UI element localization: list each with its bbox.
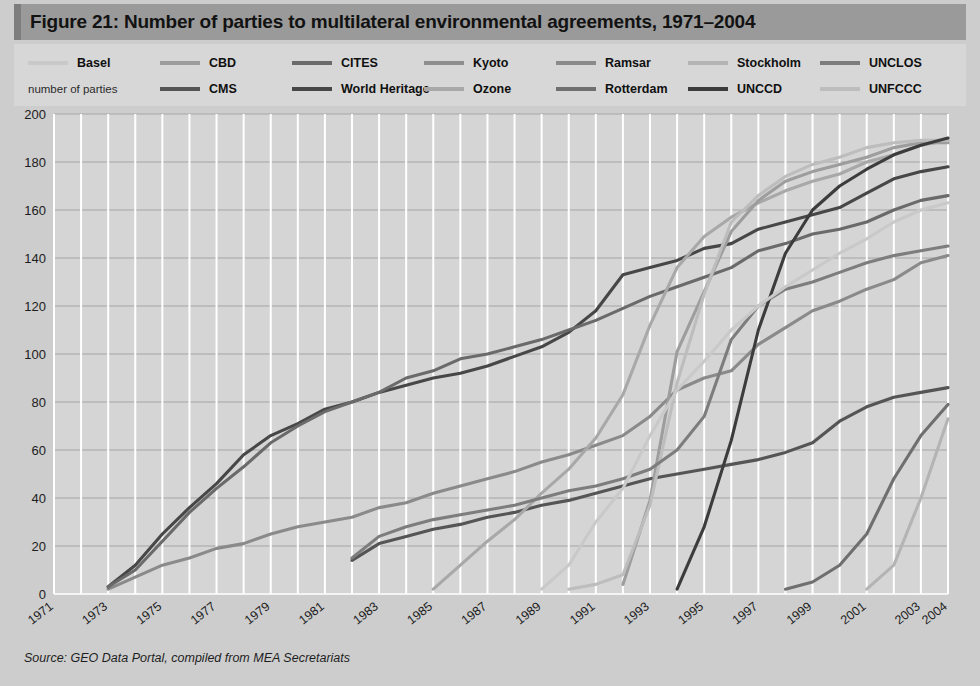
legend-swatch-icon <box>292 61 332 65</box>
legend-label: Stockholm <box>737 56 801 70</box>
legend-item-rotterdam: Rotterdam <box>556 82 668 96</box>
source-caption: Source: GEO Data Portal, compiled from M… <box>24 651 350 665</box>
legend-swatch-icon <box>556 87 596 91</box>
legend-item-unccd: UNCCD <box>688 82 782 96</box>
legend-item-unclos: UNCLOS <box>820 56 922 70</box>
legend-label: Rotterdam <box>605 82 668 96</box>
figure-title-bar: Figure 21: Number of parties to multilat… <box>14 4 966 40</box>
legend-item-world-heritage: World Heritage <box>292 82 430 96</box>
page-title: Figure 21: Number of parties to multilat… <box>14 11 755 33</box>
y-axis-tick: 40 <box>32 491 46 506</box>
y-axis-tick: 140 <box>24 251 46 266</box>
figure-container: Figure 21: Number of parties to multilat… <box>0 0 980 686</box>
legend-swatch-icon <box>820 87 860 91</box>
legend-item-unfccc: UNFCCC <box>820 82 922 96</box>
y-axis-tick: 60 <box>32 443 46 458</box>
legend-label: World Heritage <box>341 82 430 96</box>
y-axis-tick: 180 <box>24 155 46 170</box>
y-axis-caption: number of parties <box>28 83 118 95</box>
y-axis-tick: 80 <box>32 395 46 410</box>
chart-legend: BaselCBDCITESKyotoRamsarStockholmUNCLOS … <box>14 44 966 106</box>
legend-item-stockholm: Stockholm <box>688 56 801 70</box>
y-axis-tick: 100 <box>24 347 46 362</box>
legend-label: UNFCCC <box>869 82 922 96</box>
legend-item-cbd: CBD <box>160 56 236 70</box>
title-bar-accent <box>14 4 21 40</box>
y-axis-tick: 200 <box>24 107 46 122</box>
legend-row-1: BaselCBDCITESKyotoRamsarStockholmUNCLOS <box>14 50 966 76</box>
legend-swatch-icon <box>160 87 200 91</box>
legend-item-ramsar: Ramsar <box>556 56 651 70</box>
legend-swatch-icon <box>424 61 464 65</box>
legend-label: CBD <box>209 56 236 70</box>
legend-label: Ozone <box>473 82 511 96</box>
legend-swatch-icon <box>688 61 728 65</box>
y-axis-tick: 20 <box>32 539 46 554</box>
legend-label: UNCCD <box>737 82 782 96</box>
legend-swatch-icon <box>292 87 332 91</box>
legend-label: Ramsar <box>605 56 651 70</box>
plot-background <box>14 106 966 686</box>
legend-swatch-icon <box>556 61 596 65</box>
legend-item-basel: Basel <box>28 56 110 70</box>
legend-swatch-icon <box>688 87 728 91</box>
line-chart-svg: 020406080100120140160180200 197119731975… <box>14 106 966 686</box>
y-axis-tick: 120 <box>24 299 46 314</box>
legend-label: CMS <box>209 82 237 96</box>
legend-label: Kyoto <box>473 56 508 70</box>
chart-plot-area: 020406080100120140160180200 197119731975… <box>14 106 966 686</box>
legend-swatch-icon <box>820 61 860 65</box>
y-axis-tick: 160 <box>24 203 46 218</box>
legend-item-ozone: Ozone <box>424 82 511 96</box>
legend-row-2: number of partiesCMSWorld HeritageOzoneR… <box>14 76 966 102</box>
legend-label: Basel <box>77 56 110 70</box>
y-axis-tick: 0 <box>39 587 46 602</box>
legend-swatch-icon <box>160 61 200 65</box>
legend-swatch-icon <box>28 61 68 65</box>
legend-item-cites: CITES <box>292 56 378 70</box>
legend-item-kyoto: Kyoto <box>424 56 508 70</box>
legend-item-cms: CMS <box>160 82 237 96</box>
legend-label: CITES <box>341 56 378 70</box>
legend-label: UNCLOS <box>869 56 922 70</box>
legend-swatch-icon <box>424 87 464 91</box>
